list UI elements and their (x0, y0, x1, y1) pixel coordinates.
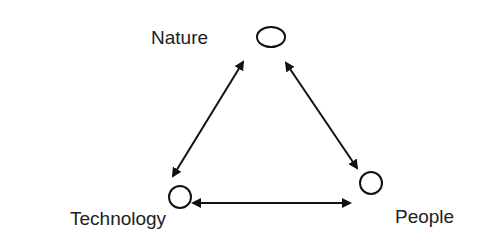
arrow-nature-technology (173, 62, 243, 176)
people-node-circle (360, 172, 382, 194)
technology-label: Technology (70, 208, 166, 230)
nature-label: Nature (151, 27, 208, 49)
technology-node-circle (169, 186, 191, 208)
nature-node-circle (257, 27, 285, 47)
people-label: People (395, 206, 454, 228)
arrow-nature-people (286, 63, 357, 168)
